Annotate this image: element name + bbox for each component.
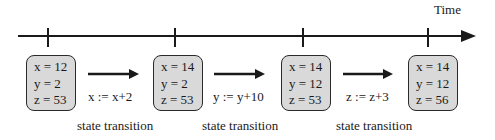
transition-arrow-1 — [88, 69, 139, 79]
state-3-y: y = 12 — [289, 76, 330, 93]
transition-operation-1: x := x+2 — [88, 89, 132, 105]
state-box-2: x = 14 y = 2 z = 53 — [153, 55, 203, 111]
transition-caption-2: state transition — [202, 118, 278, 134]
state-1-y: y = 2 — [34, 76, 75, 93]
state-2-z: z = 53 — [161, 92, 202, 109]
transition-operation-3: z := z+3 — [346, 89, 389, 105]
transition-caption-3: state transition — [336, 118, 412, 134]
timeline-arrowhead-icon — [461, 30, 476, 42]
state-box-3: x = 14 y = 12 z = 53 — [281, 55, 331, 111]
state-1-x: x = 12 — [34, 59, 75, 76]
transition-arrow-3 — [343, 69, 393, 79]
time-axis-label: Time — [434, 2, 461, 18]
state-1-z: z = 53 — [34, 92, 75, 109]
state-3-z: z = 53 — [289, 92, 330, 109]
state-2-x: x = 14 — [161, 59, 202, 76]
transition-arrow-2 — [214, 69, 265, 79]
state-4-x: x = 14 — [416, 59, 457, 76]
transition-caption-1: state transition — [77, 118, 153, 134]
state-3-x: x = 14 — [289, 59, 330, 76]
state-4-z: z = 56 — [416, 92, 457, 109]
state-2-y: y = 2 — [161, 76, 202, 93]
transition-operation-2: y := y+10 — [213, 89, 264, 105]
state-box-4: x = 14 y = 12 z = 56 — [408, 55, 458, 111]
state-4-y: y = 12 — [416, 76, 457, 93]
state-box-1: x = 12 y = 2 z = 53 — [26, 55, 76, 111]
